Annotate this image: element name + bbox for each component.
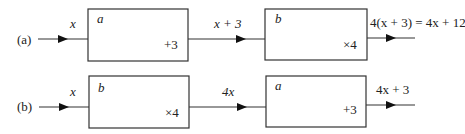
arrow-icon	[386, 34, 396, 42]
row-label: (a)	[17, 32, 31, 47]
output-label: 4(x + 3) = 4x + 12	[370, 15, 465, 30]
row-b: (b) x b ×4 4x a +3 4x + 3	[17, 76, 415, 128]
middle-label: 4x	[222, 84, 235, 99]
machine-operation: +3	[343, 102, 357, 117]
machine-name: a	[275, 78, 282, 93]
input-label: x	[69, 84, 76, 99]
arrow-icon	[236, 35, 246, 43]
function-machine-diagram: (a) x a +3 x + 3 b ×4 4(x + 3) = 4x + 12…	[0, 0, 465, 134]
machine-name: a	[97, 11, 104, 26]
arrow-icon	[386, 101, 396, 109]
machine-operation: ×4	[165, 105, 179, 120]
machine-name: b	[98, 80, 105, 95]
machine-operation: +3	[164, 37, 178, 52]
row-a: (a) x a +3 x + 3 b ×4 4(x + 3) = 4x + 12	[17, 9, 465, 61]
arrow-icon	[58, 35, 68, 43]
machine-operation: ×4	[343, 37, 357, 52]
input-label: x	[69, 16, 76, 31]
output-label: 4x + 3	[376, 82, 409, 97]
machine-name: b	[275, 11, 282, 26]
row-label: (b)	[17, 99, 32, 114]
middle-label: x + 3	[213, 16, 242, 31]
arrow-icon	[59, 103, 69, 111]
arrow-icon	[237, 103, 247, 111]
